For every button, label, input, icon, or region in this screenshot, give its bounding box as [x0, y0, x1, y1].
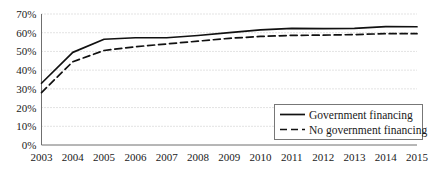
y-axis-tick-labels: 0%10%20%30%40%50%60%70%	[16, 8, 36, 151]
x-tick-label: 2014	[375, 151, 398, 163]
legend-label-no-government-financing: No government financing	[309, 124, 427, 137]
x-tick-label: 2004	[62, 151, 85, 163]
x-tick-label: 2015	[406, 151, 429, 163]
x-tick-label: 2008	[187, 151, 210, 163]
x-tick-label: 2012	[312, 151, 334, 163]
y-tick-label: 30%	[16, 83, 36, 95]
data-series-group	[42, 27, 418, 93]
chart-canvas: 0%10%20%30%40%50%60%70% 2003200420052006…	[0, 0, 435, 173]
y-tick-label: 60%	[16, 27, 36, 39]
y-tick-label: 0%	[22, 139, 37, 151]
x-tick-label: 2006	[124, 151, 147, 163]
y-tick-label: 40%	[16, 64, 36, 76]
x-tick-label: 2010	[250, 151, 273, 163]
y-tick-label: 10%	[16, 120, 36, 132]
y-tick-label: 20%	[16, 102, 36, 114]
x-tick-label: 2005	[93, 151, 116, 163]
x-axis-tick-labels: 2003200420052006200720082009201020112012…	[31, 151, 429, 163]
x-tick-label: 2007	[156, 151, 179, 163]
x-tick-label: 2013	[343, 151, 366, 163]
legend-label-government-financing: Government financing	[309, 109, 413, 122]
y-tick-label: 70%	[16, 8, 36, 20]
x-tick-label: 2003	[31, 151, 54, 163]
x-tick-label: 2009	[218, 151, 241, 163]
chart-legend: Government financing No government finan…	[275, 105, 428, 140]
x-tick-label: 2011	[281, 151, 303, 163]
y-tick-label: 50%	[16, 45, 36, 57]
line-chart: 0%10%20%30%40%50%60%70% 2003200420052006…	[0, 0, 435, 173]
